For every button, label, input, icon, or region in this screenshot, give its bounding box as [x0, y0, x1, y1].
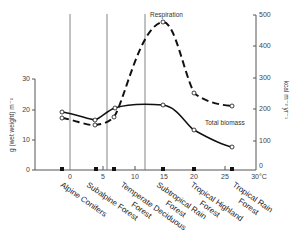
- x-tick-30: 30°C: [251, 173, 267, 180]
- y-left-tick-0: 0: [26, 166, 30, 173]
- y-left-tick-10: 10: [22, 136, 30, 143]
- biomass-points: [60, 103, 234, 149]
- x-tick-5: 5: [101, 173, 105, 180]
- category-alpine-conifers: Alpine Conifers: [59, 180, 109, 218]
- y-left-tick-20: 20: [22, 106, 30, 113]
- x-tick-20: 20: [190, 173, 198, 180]
- y-right-tick-200: 200: [259, 105, 271, 112]
- y-left-tick-30: 30: [22, 75, 30, 82]
- svg-text:Alpine Conifers: Alpine Conifers: [59, 180, 109, 218]
- respiration-curve: [62, 22, 232, 125]
- y-right-tick-300: 300: [259, 74, 271, 81]
- respiration-points: [60, 20, 234, 127]
- y-right-tick-500: 500: [259, 11, 271, 18]
- total-biomass-label: Total biomass: [205, 119, 245, 126]
- y-left-label: g (wet weight) m⁻²: [8, 97, 16, 152]
- x-tick-10: 10: [131, 173, 139, 180]
- y-right-tick-400: 400: [259, 42, 271, 49]
- respiration-label: Respiration: [150, 11, 183, 19]
- y-right-tick-0: 0: [259, 162, 263, 169]
- x-tick-15: 15: [160, 173, 168, 180]
- x-tick-0: 0: [68, 173, 72, 180]
- y-right-tick-100: 100: [259, 137, 271, 144]
- x-tick-25: 25: [221, 173, 229, 180]
- chart: 0 10 20 30 g (wet weight) m⁻² 0 100 200 …: [0, 0, 294, 246]
- y-right-label: kcal m⁻² yr⁻¹: [282, 81, 290, 120]
